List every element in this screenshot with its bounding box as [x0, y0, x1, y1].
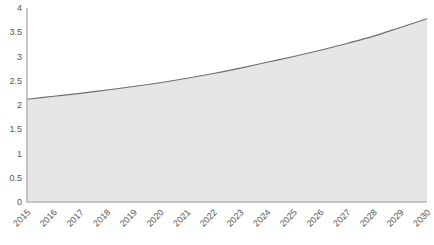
x-tick-label: 2024 [251, 207, 272, 228]
y-tick-label: 1.5 [9, 124, 22, 134]
y-tick-label: 1 [17, 149, 22, 159]
x-tick-label: 2021 [171, 207, 192, 228]
x-tick-label: 2028 [358, 207, 379, 228]
x-tick-label: 2029 [385, 207, 406, 228]
x-tick-label: 2020 [145, 207, 166, 228]
x-tick-label: 2026 [305, 207, 326, 228]
x-tick-label: 2015 [11, 207, 32, 228]
chart-canvas: 00.511.522.533.54 2015201620172018201920… [0, 0, 434, 245]
x-axis-tick-labels: 2015201620172018201920202021202220232024… [11, 207, 432, 228]
x-tick-label: 2016 [38, 207, 59, 228]
y-tick-label: 0 [17, 197, 22, 207]
x-tick-label: 2027 [331, 207, 352, 228]
y-tick-label: 2 [17, 100, 22, 110]
y-tick-label: 2.5 [9, 76, 22, 86]
y-tick-label: 3.5 [9, 27, 22, 37]
y-tick-label: 4 [17, 3, 22, 13]
x-tick-label: 2025 [278, 207, 299, 228]
y-axis-tick-labels: 00.511.522.533.54 [9, 3, 22, 207]
area-chart: 00.511.522.533.54 2015201620172018201920… [0, 0, 434, 245]
x-tick-label: 2022 [198, 207, 219, 228]
x-tick-label: 2019 [118, 207, 139, 228]
x-tick-label: 2017 [65, 207, 86, 228]
x-tick-label: 2018 [91, 207, 112, 228]
y-tick-label: 3 [17, 52, 22, 62]
y-tick-label: 0.5 [9, 173, 22, 183]
x-tick-label: 2023 [225, 207, 246, 228]
x-tick-label: 2030 [411, 207, 432, 228]
